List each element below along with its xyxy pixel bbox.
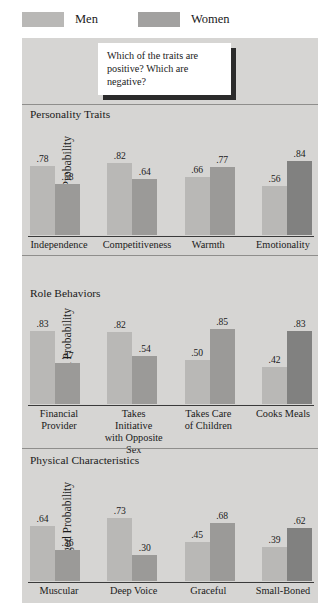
bar-men: .42	[262, 367, 287, 404]
bar-women: .30	[132, 555, 157, 581]
chart-legend: Men Women	[0, 0, 318, 38]
bar-value-label: .42	[262, 355, 287, 365]
bar-rect	[185, 360, 210, 404]
bar-rect	[262, 367, 287, 404]
bar-value-label: .73	[107, 506, 132, 516]
bar-value-label: .77	[210, 155, 235, 165]
bar-men: .64	[30, 526, 55, 581]
panel-title: Role Behaviors	[30, 287, 101, 299]
bar-value-label: .36	[55, 538, 80, 548]
plot-area: .83.47.82.54.50.85.42.83	[30, 316, 312, 404]
plot-area: .64.36.73.30.45.68.39.62	[30, 495, 312, 581]
bar-value-label: .84	[287, 149, 312, 159]
bar-rect	[30, 166, 55, 235]
bar-rect	[107, 163, 132, 235]
bar-rect	[30, 331, 55, 404]
bar-group: .45.68	[185, 523, 235, 581]
bar-men: .83	[30, 331, 55, 404]
x-axis-label: Independence	[28, 239, 90, 251]
bar-rect	[30, 526, 55, 581]
bar-women: .84	[287, 161, 312, 235]
bar-rect	[287, 161, 312, 235]
bar-group: .56.84	[262, 161, 312, 235]
bar-men: .66	[185, 177, 210, 235]
x-axis-labels: MuscularDeep VoiceGracefulSmall-Boned	[28, 585, 314, 597]
bar-value-label: .85	[210, 317, 235, 327]
panel-title: Physical Characteristics	[30, 454, 139, 466]
bar-women: .68	[210, 523, 235, 581]
bar-rect	[185, 177, 210, 235]
bar-rect	[107, 518, 132, 581]
panel-physical-characteristics: Physical Characteristics Judged Probabil…	[22, 448, 318, 603]
bar-rect	[287, 331, 312, 404]
callout-box: Which of the traits are positive? Which …	[98, 43, 231, 95]
bar-women: .62	[287, 528, 312, 581]
bar-rect	[132, 555, 157, 581]
bar-value-label: .39	[262, 535, 287, 545]
bar-men: .56	[262, 186, 287, 235]
bar-men: .82	[107, 163, 132, 235]
bar-group: .73.30	[107, 518, 157, 581]
bar-rect	[132, 356, 157, 404]
bar-rect	[55, 363, 80, 404]
bar-rect	[55, 550, 80, 581]
x-axis-line	[28, 582, 314, 583]
panel-title: Personality Traits	[30, 108, 110, 120]
bar-women: .64	[132, 179, 157, 235]
bar-group: .42.83	[262, 331, 312, 404]
x-axis-label: Emotionality	[252, 239, 314, 251]
bar-rect	[210, 167, 235, 235]
bar-men: .45	[185, 542, 210, 581]
x-axis-label: Competitiveness	[103, 239, 165, 251]
bar-group: .82.64	[107, 163, 157, 235]
bar-value-label: .50	[185, 348, 210, 358]
bar-value-label: .47	[55, 351, 80, 361]
bar-rect	[55, 184, 80, 235]
x-axis-label: Deep Voice	[103, 585, 165, 597]
bar-women: .36	[55, 550, 80, 581]
bar-value-label: .64	[132, 167, 157, 177]
bar-rect	[210, 329, 235, 404]
bar-rect	[107, 332, 132, 404]
bar-men: .73	[107, 518, 132, 581]
bar-value-label: .83	[287, 319, 312, 329]
bar-value-label: .62	[287, 516, 312, 526]
bar-value-label: .82	[107, 320, 132, 330]
bar-value-label: .30	[132, 543, 157, 553]
bar-group: .83.47	[30, 331, 80, 404]
bar-value-label: .45	[185, 530, 210, 540]
bar-men: .50	[185, 360, 210, 404]
x-axis-labels: IndependenceCompetitivenessWarmthEmotion…	[28, 239, 314, 251]
legend-label-women: Women	[191, 12, 230, 27]
x-axis-line	[28, 405, 314, 406]
panel-role-behaviors: Role Behaviors Judged Probability .83.47…	[22, 255, 318, 448]
bar-group: .50.85	[185, 329, 235, 404]
bar-value-label: .56	[262, 174, 287, 184]
bar-value-label: .58	[55, 172, 80, 182]
legend-label-men: Men	[75, 12, 98, 27]
bar-rect	[210, 523, 235, 581]
bar-rect	[185, 542, 210, 581]
bar-men: .39	[262, 547, 287, 581]
bar-group: .66.77	[185, 167, 235, 235]
legend-item-men: Men	[22, 12, 98, 27]
bar-value-label: .66	[185, 165, 210, 175]
bar-men: .82	[107, 332, 132, 404]
bar-rect	[262, 186, 287, 235]
x-axis-label: Muscular	[28, 585, 90, 597]
bar-rect	[287, 528, 312, 581]
bar-rect	[262, 547, 287, 581]
bar-value-label: .68	[210, 511, 235, 521]
legend-swatch-men	[22, 12, 64, 27]
x-axis-label: Graceful	[177, 585, 239, 597]
bar-women: .83	[287, 331, 312, 404]
bar-value-label: .78	[30, 154, 55, 164]
bar-group: .64.36	[30, 526, 80, 581]
callout-band: Which of the traits are positive? Which …	[22, 38, 318, 104]
bar-women: .77	[210, 167, 235, 235]
bar-value-label: .82	[107, 151, 132, 161]
bar-women: .85	[210, 329, 235, 404]
plot-area: .78.58.82.64.66.77.56.84	[30, 147, 312, 235]
bar-women: .47	[55, 363, 80, 404]
x-axis-label: Small-Boned	[252, 585, 314, 597]
